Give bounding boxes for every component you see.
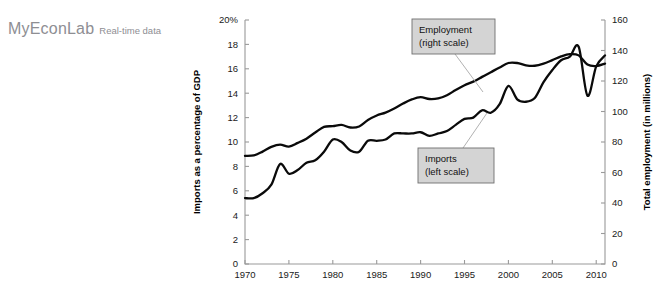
imports-callout-sublabel: (left scale) (425, 166, 469, 177)
y-axis-tick-label: 20% (219, 14, 239, 25)
y-axis-tick-label: 10 (227, 136, 238, 147)
y-axis-tick-label: 18 (227, 39, 238, 50)
y-axis-tick-label: 8 (233, 161, 238, 172)
x-axis-tick-label: 1970 (234, 269, 255, 280)
y-axis-tick-label: 6 (233, 185, 238, 196)
x-axis-tick-label: 2010 (586, 269, 607, 280)
y-axis-tick-label: 16 (227, 63, 238, 74)
y-axis-tick-label: 2 (233, 234, 238, 245)
y2-axis-tick-label: 0 (612, 258, 617, 269)
y2-axis-tick-label: 160 (612, 14, 628, 25)
x-axis-tick-label: 2005 (542, 269, 563, 280)
x-axis-tick-label: 1985 (366, 269, 387, 280)
chart-container: 02468101214161820%0204060801001201401601… (0, 0, 666, 291)
y2-axis-tick-label: 80 (612, 136, 623, 147)
y2-axis-tick-label: 100 (612, 106, 628, 117)
y-axis-tick-label: 14 (227, 88, 238, 99)
y-axis-tick-label: 0 (233, 258, 238, 269)
employment-callout-leader-line (455, 54, 483, 92)
y2-axis-tick-label: 140 (612, 45, 628, 56)
employment-callout-label: Employment (419, 24, 472, 35)
x-axis-tick-label: 2000 (498, 269, 519, 280)
y2-axis-tick-label: 60 (612, 167, 623, 178)
y-axis-title: Imports as a percentage of GDP (191, 69, 202, 214)
x-axis-tick-label: 1990 (410, 269, 431, 280)
y2-axis-tick-label: 120 (612, 75, 628, 86)
y2-axis-tick-label: 20 (612, 228, 623, 239)
y2-axis-tick-label: 40 (612, 197, 623, 208)
employment-callout-sublabel: (right scale) (419, 37, 469, 48)
series-line-employment (245, 54, 605, 156)
y-axis-tick-label: 4 (233, 210, 238, 221)
imports-employment-line-chart: 02468101214161820%0204060801001201401601… (0, 0, 666, 291)
y2-axis-title: Total employment (in millions) (641, 74, 652, 211)
y-axis-tick-label: 12 (227, 112, 238, 123)
x-axis-tick-label: 1980 (322, 269, 343, 280)
x-axis-tick-label: 1995 (454, 269, 475, 280)
imports-callout-label: Imports (425, 153, 457, 164)
x-axis-tick-label: 1975 (278, 269, 299, 280)
